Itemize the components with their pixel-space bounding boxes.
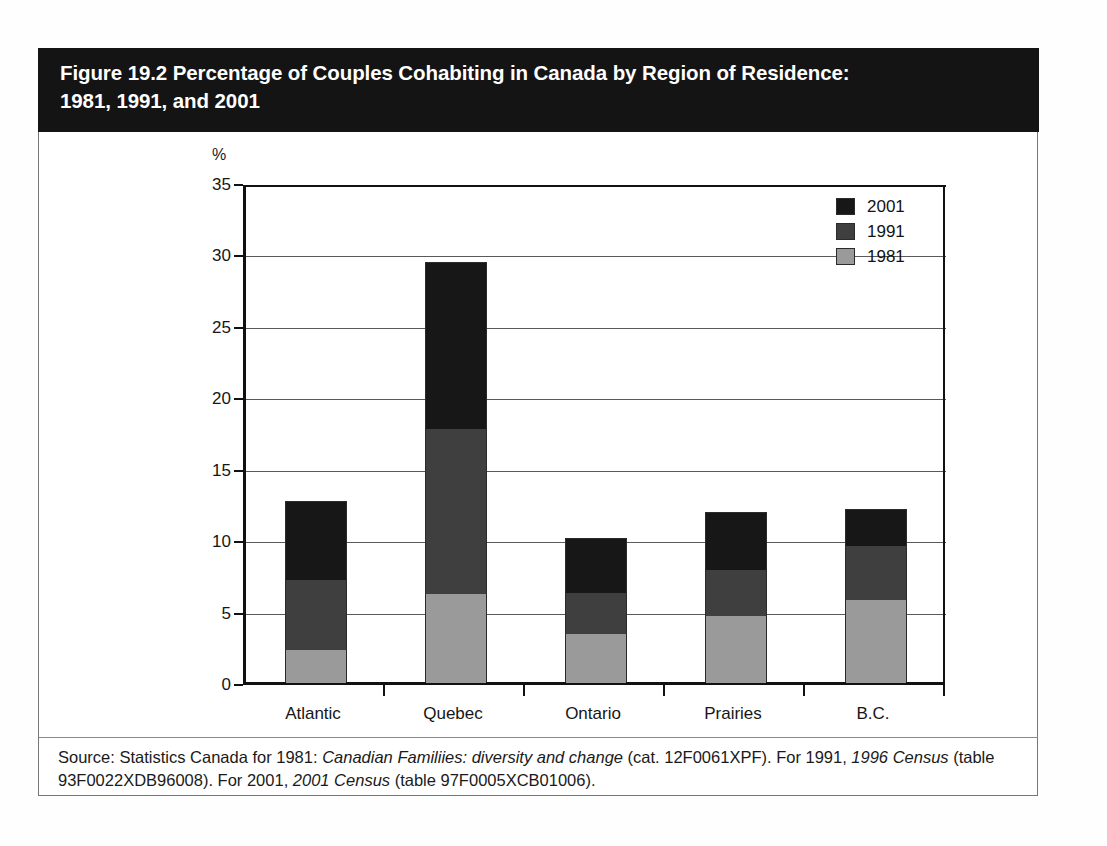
bar-segment-1981 [286, 650, 346, 683]
bar-segment-1991 [566, 593, 626, 634]
legend-item-2001: 2001 [836, 194, 938, 219]
y-tick-label-0: 0 [187, 675, 231, 695]
y-tick-label-5: 5 [187, 604, 231, 624]
bar-segment-1991 [286, 580, 346, 650]
y-tick-label-10: 10 [187, 532, 231, 552]
bar-group [526, 185, 666, 682]
x-axis-label-bc: B.C. [793, 704, 953, 724]
source-divider [39, 737, 1038, 738]
plot-right-edge [943, 185, 945, 686]
bar-segment-2001 [286, 502, 346, 581]
bar-segment-2001 [706, 513, 766, 570]
stacked-bar [845, 509, 907, 682]
bar-segment-1991 [426, 429, 486, 595]
y-tick-mark-35 [234, 184, 243, 186]
bar-segment-2001 [426, 263, 486, 429]
stacked-bar [285, 501, 347, 682]
y-tick-mark-10 [234, 541, 243, 543]
legend-label-1991: 1991 [867, 222, 905, 242]
y-tick-mark-0 [234, 684, 243, 686]
x-axis-label-atlantic: Atlantic [233, 704, 393, 724]
x-tick-mark [383, 685, 385, 696]
source-text-1: Source: Statistics Canada for 1981: [58, 748, 322, 766]
y-tick-label-35: 35 [187, 175, 231, 195]
y-tick-label-25: 25 [187, 318, 231, 338]
x-axis-label-ontario: Ontario [513, 704, 673, 724]
source-italic-2: 1996 Census [851, 748, 948, 766]
bar-segment-1981 [706, 616, 766, 683]
bar-group [246, 185, 386, 682]
x-axis-label-quebec: Quebec [373, 704, 533, 724]
bar-group [666, 185, 806, 682]
legend-swatch-icon-1981 [836, 248, 855, 265]
y-tick-mark-20 [234, 398, 243, 400]
y-axis-title: % [212, 146, 226, 164]
bar-segment-1981 [846, 600, 906, 683]
bar-segment-1981 [426, 594, 486, 683]
legend-label-1981: 1981 [867, 247, 905, 267]
chart-container: % 05101520253035 AtlanticQuebecOntarioPr… [0, 0, 1107, 846]
y-tick-label-30: 30 [187, 246, 231, 266]
legend-swatch-icon-1991 [836, 223, 855, 240]
source-italic-3: 2001 Census [293, 771, 390, 789]
legend-label-2001: 2001 [867, 197, 905, 217]
source-note: Source: Statistics Canada for 1981: Cana… [58, 746, 1028, 792]
x-tick-mark [663, 685, 665, 696]
bar-segment-2001 [846, 510, 906, 546]
source-text-2: (cat. 12F0061XPF). For 1991, [623, 748, 851, 766]
x-tick-mark [803, 685, 805, 696]
figure-page: Figure 19.2 Percentage of Couples Cohabi… [0, 0, 1107, 846]
y-tick-label-20: 20 [187, 389, 231, 409]
stacked-bar [565, 538, 627, 682]
y-tick-mark-30 [234, 255, 243, 257]
x-tick-mark [943, 685, 945, 696]
y-tick-mark-15 [234, 470, 243, 472]
bar-segment-1991 [846, 546, 906, 600]
bar-segment-1981 [566, 634, 626, 683]
x-tick-mark [523, 685, 525, 696]
y-tick-mark-25 [234, 327, 243, 329]
source-text-4: (table 97F0005XCB01006). [390, 771, 595, 789]
y-tick-label-15: 15 [187, 461, 231, 481]
stacked-bar [705, 512, 767, 682]
legend-item-1991: 1991 [836, 219, 938, 244]
bar-segment-2001 [566, 539, 626, 593]
chart-legend: 200119911981 [836, 190, 938, 273]
x-axis-label-prairies: Prairies [653, 704, 813, 724]
source-italic-1: Canadian Familiies: diversity and change [322, 748, 623, 766]
y-tick-mark-5 [234, 613, 243, 615]
legend-item-1981: 1981 [836, 244, 938, 269]
stacked-bar [425, 262, 487, 682]
legend-swatch-icon-2001 [836, 198, 855, 215]
bar-segment-1991 [706, 570, 766, 616]
bar-group [386, 185, 526, 682]
